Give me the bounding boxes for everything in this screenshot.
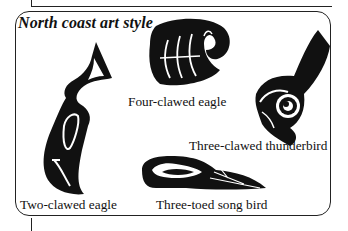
label-two-clawed-eagle: Two-clawed eagle [20,197,117,213]
four-clawed-eagle-icon [149,19,229,86]
label-three-toed-song-bird: Three-toed song bird [156,197,268,213]
label-four-clawed-eagle: Four-clawed eagle [128,94,226,110]
two-clawed-eagle-icon [44,42,112,194]
three-clawed-thunderbird-icon [255,30,330,146]
label-three-clawed-thunderbird: Three-clawed thunderbird [189,138,327,154]
three-toed-song-bird-icon [142,156,266,190]
